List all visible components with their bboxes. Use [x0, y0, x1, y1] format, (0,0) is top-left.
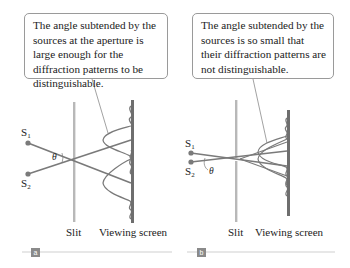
slit-label-b: Slit: [228, 226, 243, 238]
viewing-screen-b: [287, 110, 290, 216]
panel-badge-b: b: [197, 248, 206, 257]
panel-badge-a: a: [31, 248, 40, 257]
callout-pointer-b: [253, 79, 267, 143]
source-label-s1-b: S1: [185, 137, 195, 151]
ray-s2-b: [191, 151, 287, 162]
angle-arc-a: [62, 153, 63, 163]
source-s2-b: [188, 159, 193, 164]
diffraction-pattern-upper-a: [103, 106, 132, 174]
viewing-screen-a: [131, 100, 134, 223]
screen-label-b: Viewing screen: [255, 226, 323, 238]
diffraction-pattern-lower-a: [103, 150, 132, 219]
callout-b: The angle subtended by the sources is so…: [192, 13, 334, 79]
source-label-s1-a: S1: [21, 126, 31, 140]
slit-b-lower: [235, 161, 237, 222]
callout-a: The angle subtended by the sources at th…: [24, 13, 168, 79]
source-s1-a: [25, 140, 30, 145]
slit-b-upper: [235, 100, 237, 158]
ray-spread-b2: [240, 159, 287, 176]
source-label-s2-a: S2: [21, 177, 31, 191]
source-s1-b: [188, 150, 193, 155]
angle-label-b: θ: [209, 166, 214, 176]
ray-s1-b: [191, 153, 287, 166]
ray-s1-a: [28, 143, 131, 183]
screen-label-a: Viewing screen: [99, 226, 167, 238]
source-label-s2-b: S2: [185, 165, 195, 179]
angle-label-a: θ: [52, 152, 57, 162]
source-s2-a: [25, 171, 30, 176]
slit-label-a: Slit: [66, 226, 81, 238]
